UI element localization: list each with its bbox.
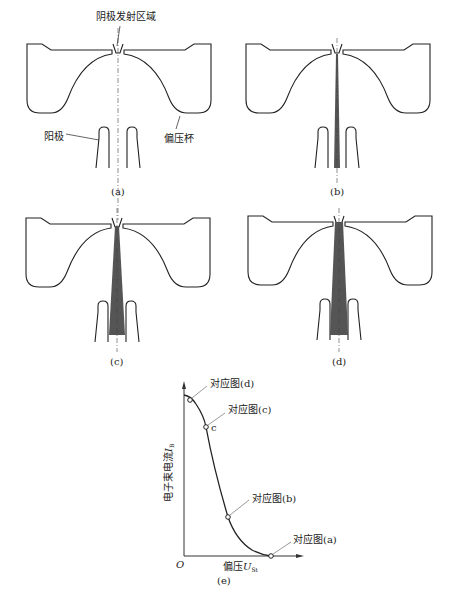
x-axis-arrow-icon xyxy=(296,554,304,558)
caption-e: (e) xyxy=(217,575,231,586)
leader-d xyxy=(192,386,207,398)
caption-b: (b) xyxy=(330,186,344,197)
x-axis-label: 偏压USt xyxy=(223,560,259,573)
panel-d xyxy=(248,208,432,352)
annotation-a: 对应图(a) xyxy=(293,533,337,545)
caption-a: (a) xyxy=(111,186,125,197)
caption-c: (c) xyxy=(110,356,124,367)
annotation-d: 对应图(d) xyxy=(210,377,254,389)
bias-cup-label: 偏压杯 xyxy=(164,132,194,144)
panel-b xyxy=(246,38,430,185)
point-c-marker xyxy=(204,425,209,430)
leader-bias-cup xyxy=(176,116,180,129)
leader-anode xyxy=(66,134,99,140)
bias-cup-shape xyxy=(27,44,211,113)
figure-canvas: 阴极发射区域 阳极 偏压杯 (a) (b) (c) (d) xyxy=(0,0,452,604)
annotation-b: 对应图(b) xyxy=(252,492,296,504)
current-curve xyxy=(184,395,271,556)
y-axis-arrow-icon xyxy=(182,381,186,389)
caption-d: (d) xyxy=(332,356,346,367)
anode-label: 阳极 xyxy=(44,130,64,142)
leader-b xyxy=(230,500,249,515)
annotation-c: 对应图(c) xyxy=(228,403,272,415)
y-axis-label: 电子束电流IB xyxy=(162,443,175,502)
leader-a xyxy=(273,542,291,554)
origin-label: O xyxy=(176,559,184,570)
y-axis-label-text: 电子束电流 xyxy=(162,452,174,502)
point-a-marker xyxy=(269,554,274,559)
x-axis-subscript: St xyxy=(251,566,258,573)
cathode-emission-label: 阴极发射区域 xyxy=(96,10,156,22)
panel-c xyxy=(26,208,210,352)
graph-e: 对应图(d) 对应图(c) c 对应图(b) 对应图(a) O 偏压USt 电子… xyxy=(162,377,337,586)
point-d-marker xyxy=(188,398,193,403)
y-axis-subscript: B xyxy=(168,443,175,448)
x-axis-label-text: 偏压 xyxy=(223,560,243,572)
point-b-marker xyxy=(226,515,231,520)
leader-emission xyxy=(117,26,120,46)
point-c-letter: c xyxy=(211,422,217,433)
